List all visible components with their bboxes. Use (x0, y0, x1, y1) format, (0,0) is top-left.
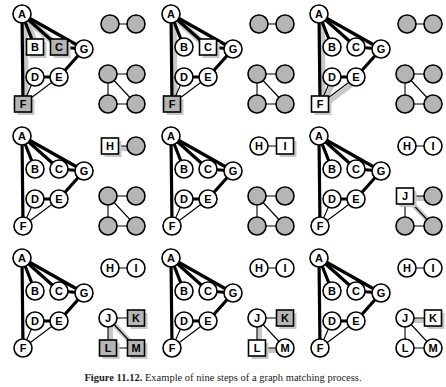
aux-quad-node-M: M (128, 340, 145, 356)
node-label: F (20, 220, 27, 232)
node-label: H (403, 140, 411, 152)
panel-step-6: ABCDEFGHIJ (297, 122, 445, 244)
aux-pair-node-I: I (276, 259, 294, 277)
node-label: A (18, 8, 26, 20)
main-node-D: D (26, 68, 44, 86)
main-node-D: D (323, 312, 341, 330)
node-label: B (328, 285, 336, 297)
aux-quad-node-J (99, 187, 117, 205)
panel-step-2: ABCDEFG (149, 0, 297, 122)
aux-quad-node-L: L (100, 340, 117, 356)
node-label: F (317, 98, 324, 110)
aux-pair-node-I: I (127, 259, 145, 277)
node-label: C (204, 285, 212, 297)
aux-pair-node-I (276, 15, 294, 33)
aux-pair-node-H (398, 15, 416, 33)
node-label: F (20, 342, 27, 354)
node-label: G (228, 43, 237, 55)
node-label: L (253, 342, 260, 354)
node-label: E (204, 193, 211, 205)
node-label: A (167, 130, 175, 142)
main-node-A: A (13, 249, 31, 267)
aux-quad-node-J: J (397, 188, 414, 204)
aux-quad-node-M (127, 95, 145, 113)
main-node-G: G (224, 162, 242, 180)
panel-step-4: ABCDEFGH (0, 122, 148, 244)
aux-quad-node-M (424, 217, 442, 235)
main-node-F: F (15, 96, 32, 112)
aux-quad-node-K: K (425, 310, 442, 326)
panel-step-1: ABCDEFG (0, 0, 148, 122)
main-node-C: C (347, 282, 365, 300)
aux-quad-node-L: L (396, 339, 414, 357)
aux-pair-node-I: I (276, 138, 293, 154)
node-label: F (168, 220, 175, 232)
aux-quad-node-J: J (99, 309, 117, 327)
aux-quad-node-L (396, 95, 414, 113)
aux-quad-node-K: K (276, 310, 293, 326)
main-node-A: A (162, 249, 180, 267)
aux-quad-node-L (99, 95, 117, 113)
main-node-D: D (175, 68, 193, 86)
node-label: F (317, 220, 324, 232)
node-label: D (31, 193, 39, 205)
main-node-D: D (323, 190, 341, 208)
panel-step-3: ABCDEFG (297, 0, 445, 122)
main-node-G: G (372, 162, 390, 180)
panel-svg-8: ABCDEFGHIJKLM (149, 244, 297, 366)
node-label: B (180, 41, 188, 53)
node-label: J (254, 312, 260, 324)
main-node-C: C (199, 39, 216, 55)
node-label: K (281, 312, 289, 324)
main-node-A: A (310, 249, 328, 267)
main-node-A: A (310, 127, 328, 145)
panel-svg-7: ABCDEFGHIJKLM (0, 244, 148, 366)
node-label: A (167, 8, 175, 20)
node-label: A (167, 252, 175, 264)
node-label: F (317, 342, 324, 354)
main-node-D: D (323, 68, 341, 86)
node-label: G (377, 165, 386, 177)
aux-pair-node-I (424, 15, 442, 33)
main-node-C: C (199, 160, 217, 178)
aux-quad-node-K (127, 187, 145, 205)
aux-pair-node-I: I (424, 259, 442, 277)
node-label: J (402, 312, 408, 324)
node-label: J (105, 312, 111, 324)
main-node-C: C (347, 160, 365, 178)
main-node-E: E (50, 190, 68, 208)
panel-svg-6: ABCDEFGHIJ (297, 122, 445, 244)
node-label: I (283, 262, 286, 274)
main-node-A: A (13, 5, 31, 23)
node-label: C (352, 285, 360, 297)
panel-svg-5: ABCDEFGHI (149, 122, 297, 244)
node-label: C (352, 41, 360, 53)
node-label: E (55, 193, 62, 205)
main-node-E: E (50, 68, 68, 86)
node-label: K (429, 312, 437, 324)
panel-svg-3: ABCDEFG (297, 0, 445, 122)
node-label: I (283, 140, 286, 152)
node-label: E (353, 71, 360, 83)
node-label: J (402, 190, 408, 202)
node-label: E (204, 71, 211, 83)
aux-quad-node-K (276, 187, 294, 205)
node-label: G (80, 287, 89, 299)
panel-svg-1: ABCDEFG (0, 0, 148, 122)
main-node-B: B (175, 160, 193, 178)
aux-quad-node-M (276, 217, 294, 235)
main-node-G: G (75, 284, 93, 302)
figure-panel-grid: ABCDEFGABCDEFGABCDEFGABCDEFGHABCDEFGHIAB… (0, 0, 446, 366)
main-node-B: B (323, 38, 341, 56)
node-label: C (352, 163, 360, 175)
node-label: G (377, 43, 386, 55)
main-node-E: E (347, 68, 365, 86)
node-label: C (55, 41, 63, 53)
main-node-G: G (224, 284, 242, 302)
node-label: D (328, 193, 336, 205)
node-label: H (255, 262, 263, 274)
node-label: A (18, 130, 26, 142)
node-label: F (20, 98, 27, 110)
node-label: E (55, 71, 62, 83)
main-node-B: B (323, 282, 341, 300)
